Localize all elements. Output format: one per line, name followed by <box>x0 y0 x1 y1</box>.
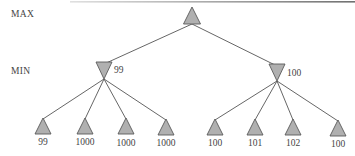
leaf-value: 100 <box>331 139 346 149</box>
min-node-1-value: 99 <box>114 65 124 75</box>
leaf-node <box>285 119 301 135</box>
edge-root-min2 <box>192 24 277 66</box>
leaf-node <box>158 119 174 135</box>
min-node-1 <box>96 62 112 79</box>
leaf-node <box>118 118 134 134</box>
leaf-value: 1000 <box>117 138 136 148</box>
min-node-2-value: 100 <box>287 68 302 78</box>
leaf-node <box>35 118 51 134</box>
level-label-min: MIN <box>11 66 30 76</box>
edge <box>255 81 277 120</box>
level-label-max: MAX <box>11 9 34 19</box>
min-node-2 <box>269 64 285 81</box>
leaf-value: 1000 <box>157 138 176 148</box>
edge <box>277 81 338 121</box>
leaf-node <box>330 120 346 136</box>
leaf-value: 1000 <box>76 137 95 147</box>
edge <box>277 81 293 120</box>
leaf-value: 99 <box>38 137 48 147</box>
edge <box>215 81 277 120</box>
edge <box>104 79 126 119</box>
edge <box>104 79 166 120</box>
leaf-node <box>247 119 263 135</box>
edge-root-min1 <box>104 24 192 64</box>
max-node-root <box>184 7 201 24</box>
game-tree-diagram: MAX MIN 99 100 99 1000 1000 1000 100 101… <box>0 0 355 156</box>
leaf-value: 101 <box>248 138 263 148</box>
leaf-node <box>207 119 223 135</box>
leaf-value: 100 <box>208 138 223 148</box>
leaf-node <box>77 118 93 134</box>
leaf-value: 102 <box>286 138 301 148</box>
top-rule <box>70 1 355 3</box>
